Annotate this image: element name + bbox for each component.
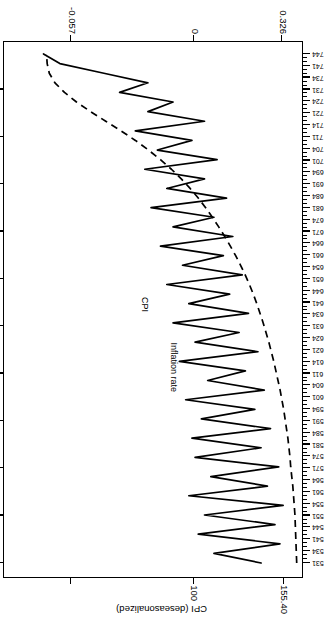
category-tick <box>302 207 310 208</box>
infl-tick-neg0057-label: -0.057 <box>68 7 78 34</box>
category-minor-tick <box>302 81 307 82</box>
category-tick-label: 741 <box>312 62 324 69</box>
category-tick-label: 534 <box>312 548 324 555</box>
cpi-tick-100-mark <box>193 577 194 584</box>
category-tick-label: 541 <box>312 536 324 543</box>
category-tick <box>302 325 310 326</box>
category-minor-tick <box>302 412 307 413</box>
cpi-tick-extra-mark <box>70 577 71 584</box>
category-tick-label: 551 <box>312 512 324 519</box>
category-tick-label: 581 <box>312 441 324 448</box>
category-minor-tick <box>302 270 307 271</box>
category-minor-tick <box>302 440 307 441</box>
category-tick <box>302 467 310 468</box>
category-tick-label: 594 <box>312 406 324 413</box>
category-minor-tick <box>302 499 307 500</box>
category-tick-label: 724 <box>312 98 324 105</box>
category-minor-tick <box>302 156 307 157</box>
category-tick <box>302 219 310 220</box>
category-minor-tick <box>302 381 307 382</box>
category-tick-label: 664 <box>312 240 324 247</box>
category-tick-label: 661 <box>312 252 324 259</box>
category-minor-tick <box>302 175 307 176</box>
category-tick-label: 674 <box>312 216 324 223</box>
plot-area: 155.40 100 0.326 0 -0.057 53153454154455… <box>3 41 303 578</box>
category-minor-tick <box>302 463 307 464</box>
category-minor-tick <box>302 317 307 318</box>
category-minor-tick <box>302 392 307 393</box>
category-minor-tick <box>302 96 307 97</box>
category-minor-tick <box>302 250 307 251</box>
category-tick <box>302 278 310 279</box>
category-tick <box>302 53 310 54</box>
category-minor-tick <box>302 163 307 164</box>
category-minor-tick <box>302 428 307 429</box>
category-tick <box>302 159 310 160</box>
category-minor-tick <box>302 286 307 287</box>
category-minor-tick <box>302 377 307 378</box>
category-minor-tick <box>302 69 307 70</box>
category-minor-tick <box>302 235 307 236</box>
category-tick <box>302 361 310 362</box>
category-tick <box>302 491 310 492</box>
category-minor-tick <box>302 238 307 239</box>
category-minor-tick <box>302 92 307 93</box>
series-annotation-inflation: Inflation rate <box>169 342 179 392</box>
category-tick <box>302 420 310 421</box>
category-minor-tick <box>302 262 307 263</box>
category-minor-tick <box>302 542 307 543</box>
category-tick <box>302 148 310 149</box>
category-minor-tick <box>302 203 307 204</box>
category-minor-tick <box>302 436 307 437</box>
category-minor-tick <box>302 404 307 405</box>
category-tick <box>302 503 310 504</box>
infl-tick-0-label: 0 <box>191 29 201 34</box>
category-tick <box>302 337 310 338</box>
category-minor-tick <box>302 523 307 524</box>
category-tick-label: 531 <box>312 560 324 567</box>
category-minor-tick <box>302 400 307 401</box>
category-tick <box>302 65 310 66</box>
category-tick-label: 734 <box>312 74 324 81</box>
category-tick-label: 714 <box>312 122 324 129</box>
series-line-inflation <box>44 54 284 563</box>
rotated-figure-wrapper: CPI (deseasonalized) 155.40 100 0.326 0 … <box>0 0 334 621</box>
category-tick-label: 544 <box>312 524 324 531</box>
cpi-tick-155-mark <box>283 577 284 584</box>
category-tick <box>302 183 310 184</box>
category-tick <box>302 384 310 385</box>
category-minor-tick <box>302 519 307 520</box>
category-minor-tick <box>302 191 307 192</box>
category-tick-label: 634 <box>312 311 324 318</box>
category-minor-tick <box>302 507 307 508</box>
category-minor-tick <box>302 132 307 133</box>
category-tick <box>302 526 310 527</box>
category-minor-tick <box>302 57 307 58</box>
category-minor-tick <box>302 306 307 307</box>
category-tick-label: 671 <box>312 228 324 235</box>
cpi-tick-100-label: 100 <box>190 585 200 601</box>
category-minor-tick <box>302 329 307 330</box>
category-minor-tick <box>302 223 307 224</box>
category-minor-tick <box>302 215 307 216</box>
category-tick <box>302 372 310 373</box>
category-tick <box>302 550 310 551</box>
category-tick-label: 554 <box>312 500 324 507</box>
category-tick-label: 701 <box>312 157 324 164</box>
category-minor-tick <box>302 448 307 449</box>
infl-tick-0326-label: 0.326 <box>279 10 289 34</box>
category-minor-tick <box>302 471 307 472</box>
category-tick <box>302 408 310 409</box>
category-minor-tick <box>302 309 307 310</box>
category-tick <box>302 266 310 267</box>
category-tick-label: 611 <box>312 370 323 377</box>
category-tick-label: 564 <box>312 477 324 484</box>
category-tick-label: 694 <box>312 169 324 176</box>
category-tick-label: 651 <box>312 275 324 282</box>
category-minor-tick <box>302 85 307 86</box>
series-canvas <box>2 40 302 577</box>
chart-figure: CPI (deseasonalized) 155.40 100 0.326 0 … <box>0 0 334 621</box>
category-tick-label: 704 <box>312 145 324 152</box>
category-minor-tick <box>302 534 307 535</box>
cpi-axis-title: CPI (deseasonalized) <box>116 604 207 615</box>
